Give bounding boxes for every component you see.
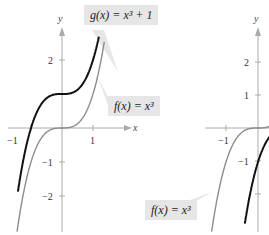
right-graph: y −1 2 1 −1 (205, 13, 269, 232)
left-g-curve (18, 37, 99, 192)
left-y-tick-2: 2 (48, 55, 53, 66)
f-left-label: f(x) = x³ (108, 96, 160, 116)
right-y-arrow-icon (255, 27, 261, 36)
f-right-label-pointer (190, 192, 212, 200)
left-y-tick-neg2: −2 (42, 191, 53, 202)
g-left-label: g(x) = x³ + 1 (84, 5, 158, 25)
f-label-text: f(x) = x³ (114, 99, 154, 113)
left-y-axis-label: y (57, 13, 63, 24)
g-label-text: g(x) = x³ + 1 (90, 8, 152, 22)
graphs-canvas: y x 1 −1 2 −1 −2 y −1 2 1 −1 (0, 0, 269, 235)
left-x-axis-label: x (132, 122, 138, 133)
right-h-curve (245, 135, 269, 223)
right-y-tick-neg1: −1 (238, 156, 249, 167)
left-y-arrow-icon (59, 27, 65, 36)
right-y-tick-1: 1 (244, 90, 249, 101)
f-right-label-text: f(x) = x³ (151, 203, 191, 217)
f-right-label: f(x) = x³ (145, 200, 197, 220)
right-y-axis-label: y (253, 13, 259, 24)
left-x-arrow-icon (124, 125, 132, 131)
left-x-tick-1: 1 (90, 135, 95, 146)
right-y-tick-2: 2 (244, 57, 249, 68)
left-graph: y x 1 −1 2 −1 −2 (7, 13, 138, 232)
left-x-tick-neg1: −1 (7, 135, 18, 146)
right-x-tick-neg1: −1 (218, 135, 229, 146)
left-y-tick-neg1: −1 (42, 157, 53, 168)
